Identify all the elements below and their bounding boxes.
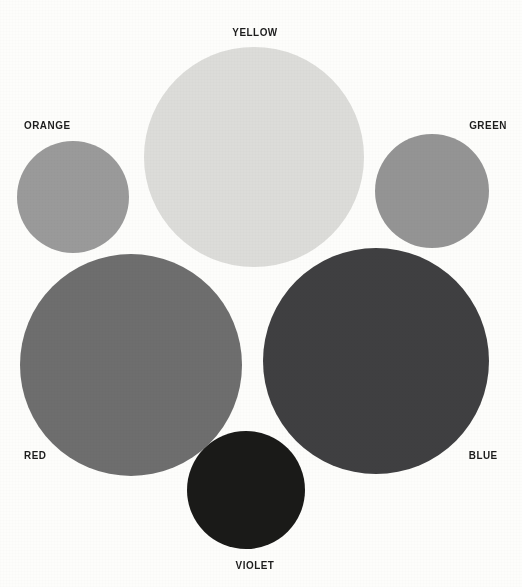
swatch-circle-yellow bbox=[144, 47, 364, 267]
swatch-circle-blue bbox=[263, 248, 489, 474]
swatch-circle-violet bbox=[187, 431, 305, 549]
color-swatch-chart: ORANGE YELLOW GREEN RED BLUE VIOLET bbox=[0, 0, 522, 587]
swatch-label-yellow: YELLOW bbox=[31, 26, 480, 39]
swatch-label-orange: ORANGE bbox=[24, 119, 71, 132]
swatch-label-red: RED bbox=[24, 449, 46, 462]
swatch-label-blue: BLUE bbox=[469, 449, 498, 462]
swatch-label-violet: VIOLET bbox=[31, 559, 480, 572]
swatch-label-green: GREEN bbox=[469, 119, 507, 132]
swatch-circle-green bbox=[375, 134, 489, 248]
swatch-circle-orange bbox=[17, 141, 129, 253]
